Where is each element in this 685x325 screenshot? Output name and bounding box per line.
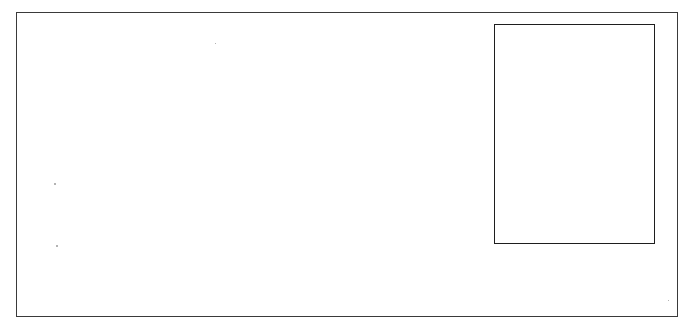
empty-placeholder-box <box>494 24 655 244</box>
scan-speck <box>215 43 216 44</box>
scan-speck <box>56 245 58 247</box>
scan-speck <box>668 300 669 301</box>
scan-speck <box>54 183 56 185</box>
